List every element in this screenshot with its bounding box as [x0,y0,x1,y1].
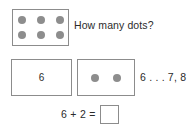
math-worksheet: How many dots? 6 6 . . . 7, 8 6 + 2 = [0,0,193,130]
dot-icon [37,31,45,39]
dot-icon [56,31,64,39]
dot-row [91,74,121,82]
two-dots-box [77,59,135,96]
dot-icon [37,16,45,24]
dot-icon [113,74,121,82]
dot-icon [18,31,26,39]
six-dots-box [12,9,69,46]
prompt-question: How many dots? [74,19,154,32]
count-on-sequence: 6 . . . 7, 8 [140,71,186,84]
dot-icon [56,16,64,24]
equation-row: 6 + 2 = [61,105,119,124]
dot-row [18,31,64,39]
addend-numeral-box: 6 [11,59,72,96]
addend-numeral-value: 6 [39,72,45,84]
equation-expression: 6 + 2 = [61,108,96,121]
dot-row [18,16,64,24]
dot-icon [91,74,99,82]
dot-icon [18,16,26,24]
answer-input-box[interactable] [100,105,119,124]
